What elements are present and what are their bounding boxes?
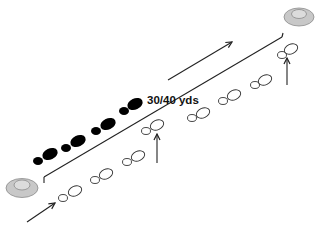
- open-footprint-icon: [251, 73, 274, 89]
- entry-arrow-icon: [27, 203, 55, 222]
- direction-arrow-icon: [168, 42, 232, 80]
- open-footprint-icon: [219, 88, 243, 105]
- distance-bracket: [44, 33, 283, 183]
- end-cone-icon: [284, 8, 314, 26]
- open-footprint-icon: [91, 167, 115, 184]
- drill-diagram: 30/40 yds: [0, 0, 316, 235]
- open-footprint-icon: [188, 106, 212, 122]
- open-footprint-icon: [59, 184, 84, 202]
- solid-footprints: [33, 96, 145, 165]
- start-cone-icon: [6, 179, 38, 198]
- solid-footprint-icon: [61, 133, 88, 152]
- open-footprint-icon: [278, 42, 300, 59]
- solid-footprint-icon: [119, 96, 145, 115]
- solid-footprint-icon: [33, 146, 60, 165]
- open-footprint-icon: [123, 149, 147, 166]
- open-footprints: [59, 42, 300, 202]
- solid-footprint-icon: [91, 116, 118, 135]
- open-footprint-icon: [142, 118, 166, 135]
- distance-label: 30/40 yds: [147, 94, 199, 106]
